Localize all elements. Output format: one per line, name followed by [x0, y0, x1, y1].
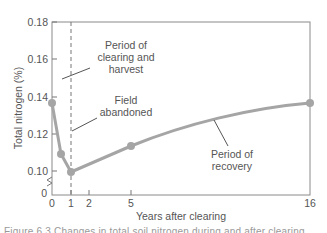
leader-line	[214, 120, 228, 146]
nitrogen-series-line	[52, 103, 310, 172]
x-tick-2: 2	[86, 197, 92, 209]
figure-caption: Figure 6.3 Changes in total soil nitroge…	[4, 226, 305, 233]
y-tick-0: 0	[41, 187, 47, 199]
x-axis-title: Years after clearing	[136, 210, 226, 222]
x-axis-ticks	[71, 190, 131, 195]
annotation-clearing-harvest: Period of clearing and harvest	[62, 39, 155, 79]
y-tick-0.16: 0.16	[28, 53, 49, 65]
data-point-year-0	[48, 99, 56, 107]
annotation-recovery: Period of recovery	[211, 120, 253, 172]
leader-line	[62, 68, 90, 79]
y-axis-title: Total nitrogen (%)	[12, 67, 24, 149]
svg-text:abandoned: abandoned	[100, 106, 153, 118]
data-point-year-0.5	[57, 150, 65, 158]
y-tick-0.14: 0.14	[28, 91, 49, 103]
x-tick-1: 1	[68, 197, 74, 209]
leader-line	[72, 118, 97, 131]
data-point-year-5	[127, 142, 135, 150]
svg-text:harvest: harvest	[109, 63, 144, 75]
svg-text:recovery: recovery	[212, 160, 253, 172]
x-axis-tick-labels: 0 1 2 5 16	[49, 197, 316, 209]
x-tick-16: 16	[304, 197, 316, 209]
svg-text:Period of: Period of	[211, 148, 253, 160]
data-point-year-16	[306, 99, 314, 107]
svg-text:clearing and: clearing and	[97, 51, 154, 63]
nitrogen-line-chart: 0.18 0.16 0.14 0.12 0.10 0 Total nitroge…	[0, 0, 327, 233]
y-tick-0.10: 0.10	[28, 165, 49, 177]
y-tick-0.12: 0.12	[28, 128, 49, 140]
x-tick-0: 0	[49, 197, 55, 209]
annotation-field-abandoned: Field abandoned	[72, 94, 152, 131]
svg-text:Period of: Period of	[105, 39, 147, 51]
y-axis-tick-labels: 0.18 0.16 0.14 0.12 0.10 0	[28, 16, 49, 199]
y-axis-break-marker	[47, 177, 52, 186]
data-point-year-1	[67, 168, 75, 176]
x-tick-5: 5	[128, 197, 134, 209]
svg-text:Field: Field	[115, 94, 138, 106]
y-axis-ticks	[52, 22, 57, 171]
y-tick-0.18: 0.18	[28, 16, 49, 28]
